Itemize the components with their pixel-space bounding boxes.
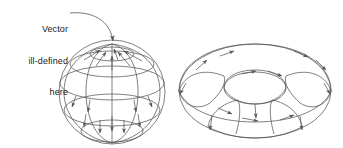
torus-field-arrows: [180, 51, 330, 130]
sphere-meridian-4: [112, 44, 138, 143]
annotation-callout-text: Vector ill-defined here: [6, 3, 68, 119]
annotation-line-3: here: [6, 87, 68, 98]
sphere-meridian-2: [86, 44, 112, 143]
torus-wireframe: [179, 44, 331, 138]
torus-inner-hole: [224, 72, 286, 104]
annotation-line-1: Vector: [6, 24, 68, 35]
torus-outer-outline: [179, 44, 331, 138]
vector-field-figure: Vector ill-defined here: [0, 0, 343, 148]
torus-top-ridge: [179, 44, 331, 91]
torus-toroidal-front-band: [208, 127, 302, 138]
annotation-line-2: ill-defined: [6, 56, 68, 67]
callout-leader-line: [70, 13, 113, 41]
torus-toroidal-inner-lower: [224, 88, 286, 104]
torus-inner-upper-rim: [224, 70, 286, 88]
